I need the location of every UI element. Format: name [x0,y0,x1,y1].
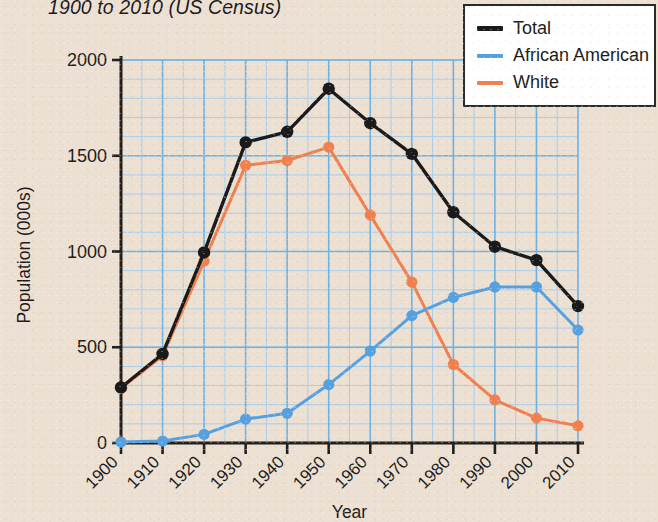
legend-swatch-total [477,26,503,31]
y-axis-title: Population (000s) [14,186,34,323]
svg-text:0: 0 [97,433,107,453]
legend-label-african-american: African American [513,45,649,66]
svg-text:1930: 1930 [206,452,246,492]
svg-text:2000: 2000 [67,50,107,70]
svg-text:1980: 1980 [414,452,454,492]
axis-ticks [112,60,578,454]
svg-text:1990: 1990 [456,452,496,492]
svg-text:2000: 2000 [497,452,537,492]
legend-swatch-african-american [477,54,503,58]
y-axis-tick-labels: 0500100015002000 [67,50,107,453]
x-axis-tick-labels: 1900191019201930194019501960197019801990… [82,452,579,492]
svg-text:1920: 1920 [165,452,205,492]
chart-legend: Total African American White [463,4,656,107]
legend-item-african-american: African American [477,42,654,69]
axis-lines [121,56,584,443]
svg-text:1970: 1970 [372,452,412,492]
x-axis-title: Year [332,502,368,522]
svg-text:2010: 2010 [539,452,579,492]
svg-text:1500: 1500 [67,146,107,166]
svg-text:1000: 1000 [67,242,107,262]
svg-text:1900: 1900 [82,452,122,492]
legend-label-total: Total [513,18,551,39]
svg-text:1950: 1950 [289,452,329,492]
legend-swatch-white [477,81,503,85]
svg-text:1910: 1910 [123,452,163,492]
svg-text:1960: 1960 [331,452,371,492]
legend-item-total: Total [477,15,654,42]
svg-text:500: 500 [77,337,107,357]
svg-text:1940: 1940 [248,452,288,492]
legend-item-white: White [477,69,654,96]
legend-label-white: White [513,72,559,93]
